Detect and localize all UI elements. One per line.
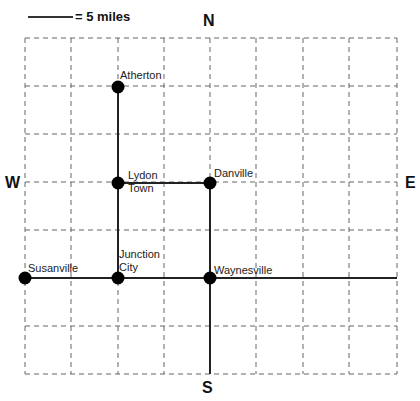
town-label-atherton: Atherton [120,69,162,82]
town-marker-atherton [112,81,125,94]
town-label-junction-city: Junction City [119,248,160,274]
town-label-danville: Danville [214,167,253,180]
town-label-susanville: Susanville [28,262,78,275]
town-label-lydon-town: Lydon Town [128,169,158,195]
town-label-waynesville: Waynesville [214,264,272,277]
town-marker-lydon-town [112,177,125,190]
map-grid [0,0,420,401]
